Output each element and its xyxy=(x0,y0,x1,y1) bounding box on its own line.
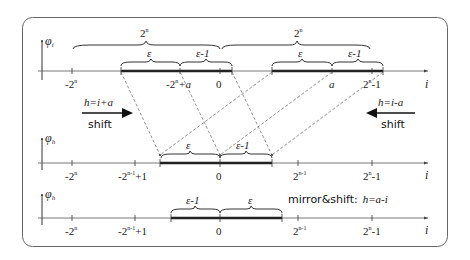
figure-frame xyxy=(23,18,448,247)
mirror-shift-annotation: mirror&shift:h=a-i xyxy=(288,193,388,206)
tick-label-zero: 0 xyxy=(216,225,222,237)
brace-epsilon-right-1-label: ε xyxy=(298,47,303,59)
brace-epsilon-minus-1-left-1-label: ε-1 xyxy=(196,47,210,59)
brace-epsilon-minus-1-right-1-label: ε-1 xyxy=(348,47,362,59)
y-axis-arrowhead xyxy=(41,40,43,42)
x-axis-label: i xyxy=(425,223,428,237)
tick-label-2n-minus-1: 2n-1 xyxy=(363,225,381,237)
x-axis-label: i xyxy=(425,168,428,182)
x-axis-label: i xyxy=(425,77,428,91)
shift-mapping-diagram: φi i -2n -2n+a 0 a 2n-1 xyxy=(0,0,470,260)
left-shift-formula: h=i+a xyxy=(84,96,113,108)
brace-epsilon-minus-1-label: ε-1 xyxy=(186,194,200,206)
tick-label-zero: 0 xyxy=(216,78,222,90)
tick-label-2n-minus-1: 2n-1 xyxy=(363,170,381,182)
brace-epsilon-minus-1-label: ε-1 xyxy=(236,139,250,151)
brace-epsilon-label: ε xyxy=(186,139,191,151)
brace-epsilon-left-1-label: ε xyxy=(147,47,152,59)
right-shift-word: shift xyxy=(381,118,405,131)
left-shift-word: shift xyxy=(88,118,112,131)
tick-label-2n-minus-1: 2n-1 xyxy=(363,78,381,90)
tick-label-a: a xyxy=(329,78,335,90)
brace-epsilon-label: ε xyxy=(248,194,253,206)
tick-label-zero: 0 xyxy=(216,170,222,182)
right-shift-formula: h=i-a xyxy=(378,96,404,108)
